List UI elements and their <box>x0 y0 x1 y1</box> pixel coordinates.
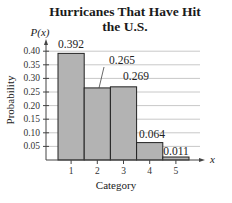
x-axis-arrow-icon <box>199 158 205 162</box>
value-label: 0.269 <box>123 70 149 82</box>
bar-category-3 <box>110 87 136 160</box>
x-tick-label: 3 <box>121 166 126 176</box>
x-tick-label: 4 <box>147 166 152 176</box>
value-label: 0.392 <box>58 38 84 50</box>
x-ticks: 12345 <box>69 160 179 176</box>
x-axis-label: Category <box>96 179 137 191</box>
bar-category-4 <box>137 143 163 160</box>
value-label: 0.011 <box>163 145 189 157</box>
y-axis-arrow-icon <box>44 39 48 45</box>
y-tick-label: 0.35 <box>23 60 40 70</box>
bar-category-2 <box>84 88 110 160</box>
x-tick-label: 2 <box>95 166 100 176</box>
value-label: 0.265 <box>109 54 135 66</box>
y-tick-label: 0.30 <box>23 73 40 83</box>
y-axis-symbol: P(x) <box>30 26 50 39</box>
value-label: 0.064 <box>139 128 165 140</box>
y-tick-label: 0.10 <box>23 128 40 138</box>
y-axis-label: Probability <box>4 75 16 124</box>
x-axis-symbol: x <box>209 153 215 165</box>
x-tick-label: 1 <box>69 166 74 176</box>
y-tick-label: 0.25 <box>23 87 40 97</box>
bar-category-1 <box>58 53 84 160</box>
y-tick-label: 0.05 <box>23 141 40 151</box>
y-ticks: 0.050.100.150.200.250.300.350.40 <box>23 46 49 151</box>
chart-plot: P(x) x Category Probability 0.050.100.15… <box>0 0 232 203</box>
leader-line <box>99 67 104 88</box>
y-tick-label: 0.20 <box>23 101 40 111</box>
y-tick-label: 0.40 <box>23 46 40 56</box>
x-tick-label: 5 <box>174 166 179 176</box>
y-tick-label: 0.15 <box>23 114 40 124</box>
